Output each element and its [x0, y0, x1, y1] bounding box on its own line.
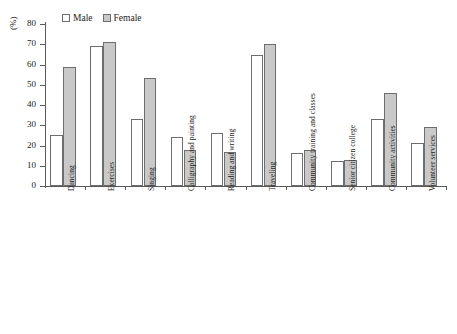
- x-axis-tick: [125, 186, 126, 190]
- category-label-4: Reading and writing: [228, 129, 235, 191]
- plot-area: [45, 24, 446, 186]
- x-axis-tick: [366, 186, 367, 190]
- legend-item-male[interactable]: Male: [62, 13, 93, 23]
- y-axis-tick-label: 70: [0, 39, 36, 48]
- category-label-6: Community training and classes: [309, 93, 316, 191]
- bar-male-3: [171, 137, 184, 186]
- bar-male-2: [131, 119, 144, 186]
- legend-label: Female: [114, 13, 142, 23]
- category-label-0: Dancing: [68, 165, 75, 191]
- y-axis-tick-label: 30: [0, 120, 36, 129]
- x-axis-tick: [85, 186, 86, 190]
- chart-legend: MaleFemale: [62, 13, 142, 23]
- y-axis-tick-label: 60: [0, 60, 36, 69]
- category-label-2: Singing: [148, 167, 155, 191]
- y-axis-tick-label: 80: [0, 19, 36, 28]
- bar-chart: MaleFemale (%) 01020304050607080 Dancing…: [0, 0, 457, 334]
- y-axis-tick-label: 20: [0, 141, 36, 150]
- x-axis-tick: [446, 186, 447, 190]
- bar-male-6: [291, 153, 304, 186]
- bar-male-7: [331, 161, 344, 186]
- legend-swatch-male: [62, 14, 70, 22]
- x-axis-tick: [286, 186, 287, 190]
- category-label-5: Traveling: [269, 162, 276, 191]
- category-label-9: Volunteer services: [429, 135, 436, 191]
- x-axis-tick: [246, 186, 247, 190]
- x-axis-tick: [165, 186, 166, 190]
- x-axis-tick: [205, 186, 206, 190]
- x-axis-tick: [326, 186, 327, 190]
- bar-male-8: [371, 119, 384, 186]
- x-axis-tick: [406, 186, 407, 190]
- y-axis-tick-label: 0: [0, 181, 36, 190]
- bar-male-4: [211, 133, 224, 186]
- legend-item-female[interactable]: Female: [103, 13, 142, 23]
- category-label-3: Calligraphy and painting: [188, 115, 195, 191]
- y-axis-tick-label: 40: [0, 100, 36, 109]
- bar-male-0: [50, 135, 63, 186]
- bar-male-5: [251, 55, 264, 186]
- bar-male-1: [90, 46, 103, 186]
- y-axis-tick-label: 10: [0, 161, 36, 170]
- y-axis-tick-label: 50: [0, 80, 36, 89]
- legend-label: Male: [73, 13, 93, 23]
- y-axis-tick: [40, 186, 45, 187]
- bar-male-9: [411, 143, 424, 186]
- category-label-1: Exercises: [108, 162, 115, 191]
- category-label-8: Community activities: [389, 125, 396, 191]
- category-label-7: Senior citizen college: [349, 125, 356, 191]
- legend-swatch-female: [103, 14, 111, 22]
